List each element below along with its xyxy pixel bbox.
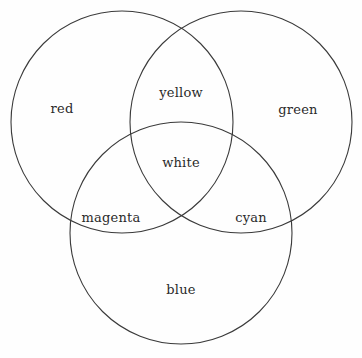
venn-diagram: red yellow green white magenta cyan blue — [0, 0, 362, 358]
venn-circle-red — [11, 11, 233, 233]
venn-label-white: white — [162, 156, 200, 169]
venn-circles-svg — [0, 0, 362, 358]
venn-circle-green — [130, 11, 352, 233]
venn-label-magenta: magenta — [82, 211, 141, 224]
venn-label-green: green — [278, 103, 317, 116]
venn-label-yellow: yellow — [159, 86, 203, 99]
venn-label-cyan: cyan — [235, 211, 267, 224]
venn-label-blue: blue — [166, 283, 195, 296]
venn-label-red: red — [51, 102, 74, 115]
